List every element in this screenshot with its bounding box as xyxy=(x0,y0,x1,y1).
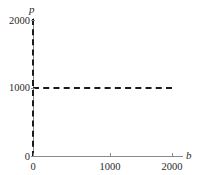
y-tick-mark-1000 xyxy=(31,88,35,89)
y-tick-label-0: 0 xyxy=(25,152,30,163)
y-tick-label-1000: 1000 xyxy=(9,83,30,94)
y-axis-label: p xyxy=(29,4,35,15)
y-tick-mark-2000 xyxy=(31,20,35,21)
x-tick-mark-2000 xyxy=(172,153,173,157)
chart-figure: 0 1000 2000 0 1000 2000 b p xyxy=(0,0,198,175)
y-tick-mark-0 xyxy=(31,156,35,157)
x-tick-mark-1000 xyxy=(110,153,111,157)
x-axis-line xyxy=(33,156,183,157)
x-axis-label: b xyxy=(186,150,192,161)
x-tick-label-1000: 1000 xyxy=(100,162,121,173)
y-tick-label-2000: 2000 xyxy=(9,16,30,27)
series-horizontal-segment xyxy=(33,87,172,89)
x-tick-label-2000: 2000 xyxy=(162,162,183,173)
x-tick-label-0: 0 xyxy=(30,162,35,173)
